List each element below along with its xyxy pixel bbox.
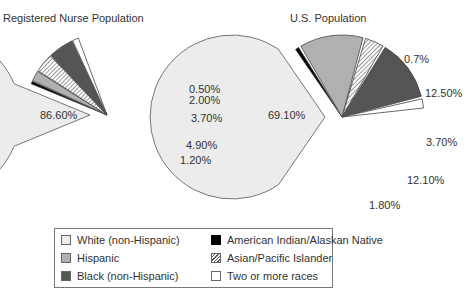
- legend-item-hispanic: Hispanic: [61, 252, 119, 264]
- right-label-hispanic: 12.50%: [425, 87, 462, 99]
- right-label-native: 0.7%: [404, 53, 429, 65]
- legend-item-asian: Asian/Pacific Islander: [211, 252, 332, 264]
- legend-item-two: Two or more races: [211, 270, 318, 282]
- legend-label: Asian/Pacific Islander: [227, 252, 332, 264]
- legend-swatch-two: [211, 271, 221, 281]
- legend-label: American Indian/Alaskan Native: [227, 234, 383, 246]
- legend-swatch-asian: [211, 253, 221, 263]
- legend-label: Two or more races: [227, 270, 318, 282]
- right-label-asian: 3.70%: [426, 136, 457, 148]
- legend-item-black: Black (non-Hispanic): [61, 270, 178, 282]
- legend-item-native: American Indian/Alaskan Native: [211, 234, 383, 246]
- right-label-two: 1.80%: [369, 199, 400, 211]
- legend: White (non-Hispanic) Hispanic Black (non…: [54, 228, 333, 288]
- legend-swatch-black: [61, 271, 71, 281]
- left-label-two: 1.20%: [180, 154, 211, 166]
- left-label-asian: 3.70%: [191, 112, 222, 124]
- right-label-black: 12.10%: [407, 174, 444, 186]
- legend-swatch-white: [61, 235, 71, 245]
- left-label-hispanic: 2.00%: [189, 94, 220, 106]
- legend-label: White (non-Hispanic): [77, 234, 180, 246]
- legend-label: Black (non-Hispanic): [77, 270, 178, 282]
- legend-swatch-hispanic: [61, 253, 71, 263]
- legend-swatch-native: [211, 235, 221, 245]
- left-label-white: 86.60%: [40, 109, 77, 121]
- right-label-white: 69.10%: [268, 109, 305, 121]
- legend-item-white: White (non-Hispanic): [61, 234, 180, 246]
- left-label-black: 4.90%: [186, 139, 217, 151]
- legend-label: Hispanic: [77, 252, 119, 264]
